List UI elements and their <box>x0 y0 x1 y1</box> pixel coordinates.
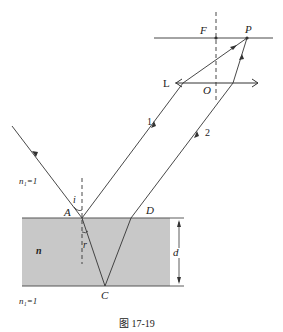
label-ray-1: 1 <box>147 116 152 127</box>
label-D: D <box>145 204 154 216</box>
label-A: A <box>63 206 71 218</box>
label-d: d <box>173 246 179 258</box>
label-i: i <box>73 194 76 205</box>
label-n1-bottom: n₁=1 <box>19 296 37 306</box>
label-P: P <box>244 23 252 35</box>
slab <box>22 218 170 286</box>
point-P <box>245 36 248 39</box>
label-n1-top: n₁=1 <box>19 176 37 186</box>
label-r: r <box>83 239 87 250</box>
incident-ray <box>12 126 82 218</box>
label-C: C <box>101 289 109 301</box>
label-L: L <box>163 77 170 89</box>
label-ray-2: 2 <box>205 127 210 138</box>
label-n: n <box>36 245 42 256</box>
figure-caption: 图 17-19 <box>119 318 155 329</box>
label-F: F <box>199 24 207 36</box>
label-O: O <box>203 84 211 96</box>
ray-2 <box>131 83 233 218</box>
ray-1 <box>82 83 183 218</box>
thin-film-interference-diagram: F P L O 1 2 A D C i r d n n₁=1 n₁=1 图 17… <box>0 0 283 332</box>
